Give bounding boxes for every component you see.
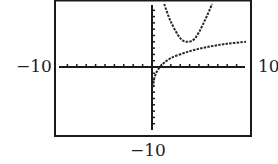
xmin-label: −10 [16, 58, 52, 75]
axes [59, 5, 245, 130]
curves [153, 4, 246, 87]
ymin-label: −10 [130, 142, 166, 159]
xmax-label: 10 [258, 58, 278, 75]
upper-curve [164, 4, 212, 42]
